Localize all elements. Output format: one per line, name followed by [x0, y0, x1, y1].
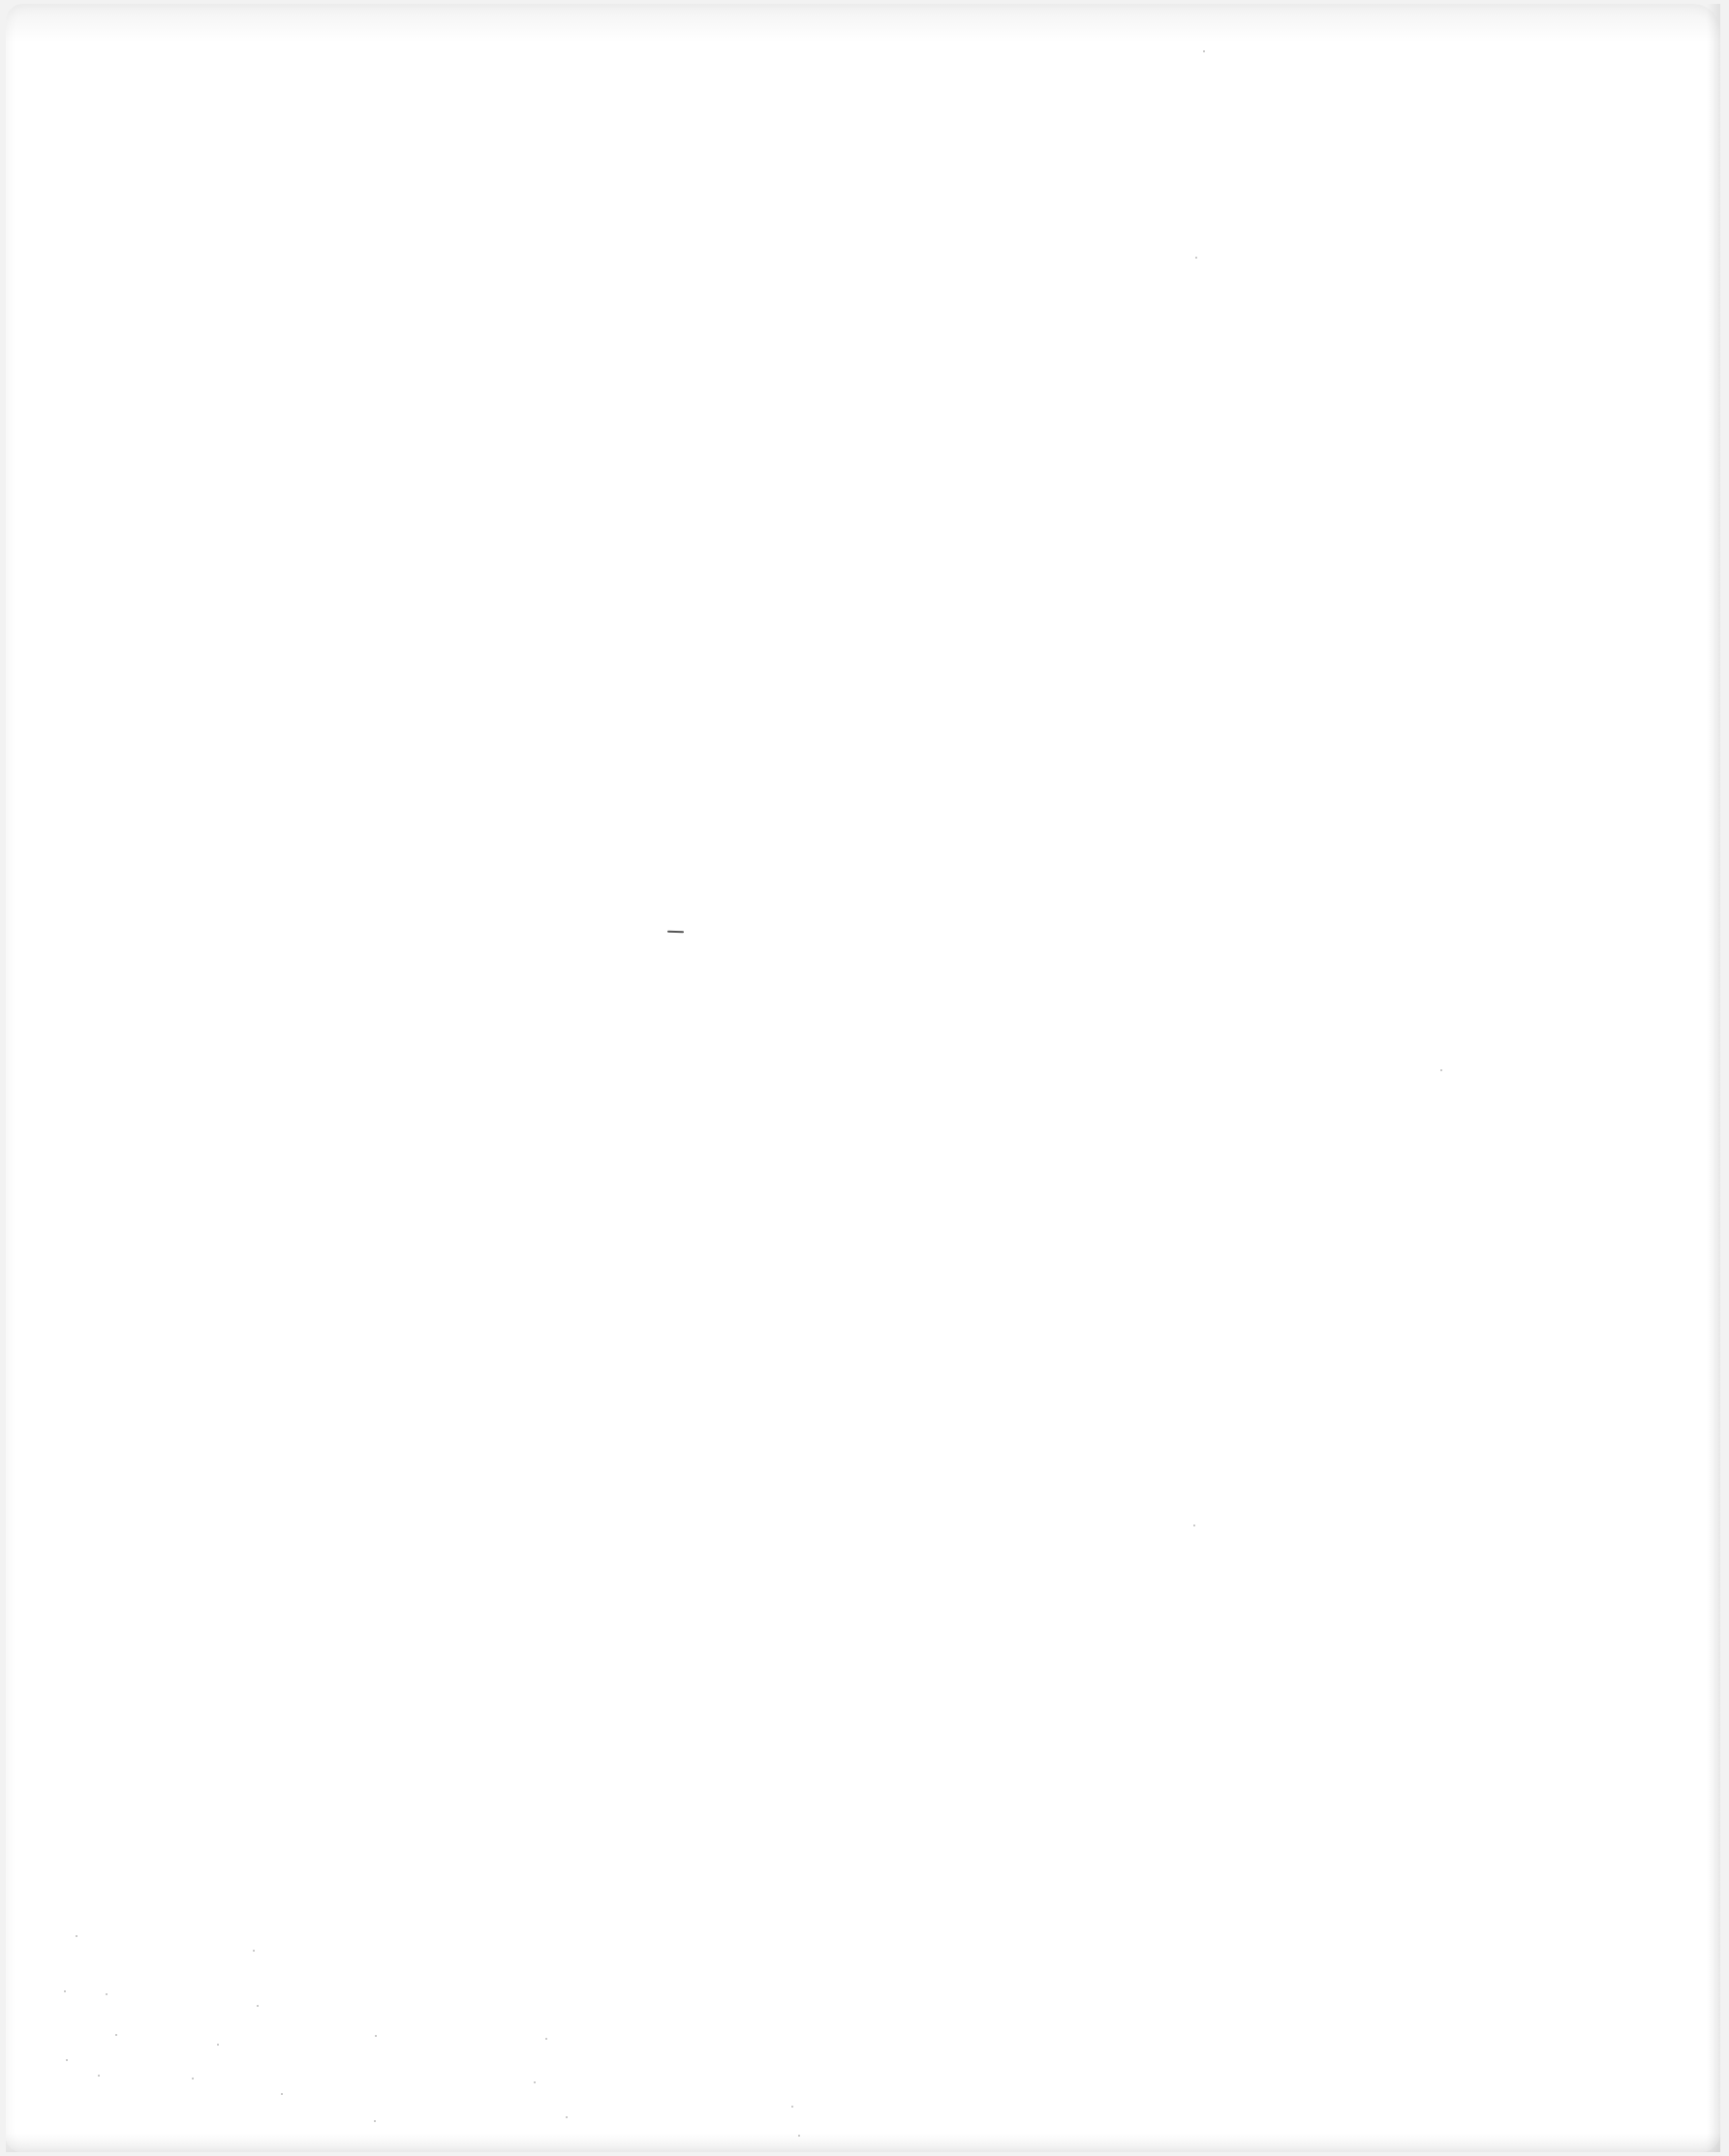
blank-page [6, 4, 1720, 2152]
stray-dash-mark [667, 931, 684, 934]
scan-shadow-bottom [6, 2133, 1720, 2152]
scan-shadow-right [1707, 4, 1720, 2152]
scan-shadow-top [6, 4, 1720, 43]
